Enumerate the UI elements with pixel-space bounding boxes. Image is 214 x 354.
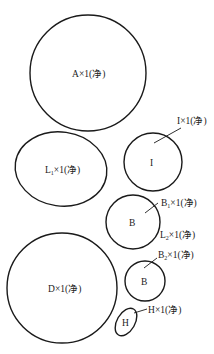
part-b2: B B2×1(净) bbox=[125, 249, 194, 301]
part-b1-label: B1×1(净) bbox=[161, 197, 197, 209]
part-b1: B B1×1(净) bbox=[106, 195, 197, 249]
part-b2-inner-text: B bbox=[141, 277, 147, 287]
part-h: H H×1(净) bbox=[111, 304, 182, 339]
part-h-label: H×1(净) bbox=[148, 304, 181, 316]
part-d: D×1(净) bbox=[7, 233, 117, 343]
part-d-label: D×1(净) bbox=[48, 283, 81, 295]
part-l1-label: L1×1(净) bbox=[45, 164, 80, 176]
part-i-label: I×1(净) bbox=[177, 115, 207, 127]
part-a-label: A×1(净) bbox=[72, 68, 105, 80]
part-h-inner-text: H bbox=[122, 318, 129, 328]
part-i: I I×1(净) bbox=[124, 115, 207, 191]
part-b1-inner-text: B bbox=[129, 218, 135, 228]
part-i-leader-line bbox=[154, 128, 181, 143]
parts-diagram: A×1(净) L1×1(净) I I×1(净) B B1×1(净) L2×1(净… bbox=[0, 0, 214, 354]
part-l2-label: L2×1(净) bbox=[160, 229, 195, 241]
part-l1: L1×1(净) bbox=[10, 126, 111, 212]
part-a: A×1(净) bbox=[30, 15, 146, 131]
part-i-inner-text: I bbox=[150, 158, 153, 168]
part-l2: L2×1(净) bbox=[160, 229, 195, 241]
part-b2-label: B2×1(净) bbox=[158, 249, 194, 261]
